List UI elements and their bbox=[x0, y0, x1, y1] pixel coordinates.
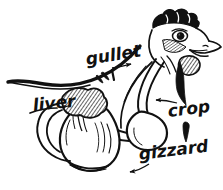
diagram-canvas: gullet liver crop gizzard bbox=[0, 0, 223, 190]
chicken-digestive-diagram: gullet liver crop gizzard bbox=[0, 0, 223, 190]
